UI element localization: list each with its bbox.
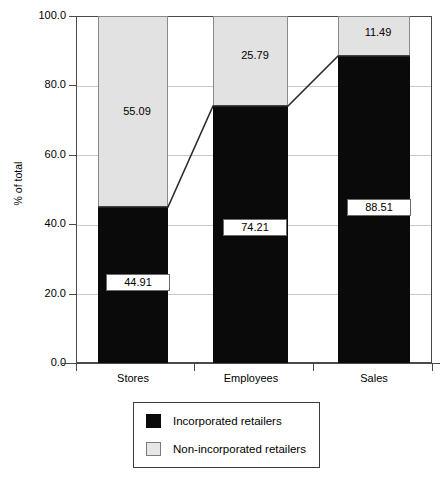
legend-item-incorporated: Incorporated retailers xyxy=(146,414,282,428)
value-label-sales-non-incorporated: 11.49 xyxy=(344,25,412,40)
y-tick-20 xyxy=(69,294,76,295)
x-tick-2 xyxy=(313,363,314,371)
value-label-sales-incorporated: 88.51 xyxy=(347,199,411,216)
y-tick-label-100: 100.0 xyxy=(18,10,66,21)
y-tick-label-0: 0.0 xyxy=(18,357,66,368)
x-tick-label-stores: Stores xyxy=(103,372,163,384)
y-tick-100 xyxy=(69,16,76,17)
legend-label-incorporated: Incorporated retailers xyxy=(173,415,282,428)
x-axis-line xyxy=(62,363,440,364)
y-tick-80 xyxy=(69,85,76,86)
chart-legend: Incorporated retailers Non-incorporated … xyxy=(133,402,320,468)
value-label-employees-incorporated: 74.21 xyxy=(223,219,287,236)
y-axis-title: % of total xyxy=(13,144,24,224)
x-tick-label-sales: Sales xyxy=(344,372,404,384)
x-tick-1 xyxy=(194,363,195,371)
y-tick-60 xyxy=(69,155,76,156)
y-tick-40 xyxy=(69,224,76,225)
y-tick-label-40: 40.0 xyxy=(18,218,66,229)
value-label-stores-non-incorporated: 55.09 xyxy=(103,104,171,119)
y-tick-label-60: 60.0 xyxy=(18,149,66,160)
value-label-employees-non-incorporated: 25.79 xyxy=(221,48,289,63)
y-tick-label-80: 80.0 xyxy=(18,79,66,90)
x-tick-left-edge xyxy=(76,363,77,371)
y-axis-line xyxy=(76,16,77,363)
legend-item-non-incorporated: Non-incorporated retailers xyxy=(146,442,306,456)
value-label-stores-incorporated: 44.91 xyxy=(106,274,170,291)
legend-swatch-icon-incorporated xyxy=(146,414,161,428)
y-tick-label-20: 20.0 xyxy=(18,288,66,299)
chart-root: 100.0 80.0 60.0 40.0 20.0 0.0 % of total xyxy=(0,0,446,484)
x-tick-label-employees: Employees xyxy=(213,372,289,384)
x-tick-right-edge xyxy=(432,363,433,371)
legend-swatch-icon-non-incorporated xyxy=(146,442,161,456)
stacked-bar-chart: 100.0 80.0 60.0 40.0 20.0 0.0 % of total xyxy=(0,0,446,396)
legend-label-non-incorporated: Non-incorporated retailers xyxy=(173,443,306,456)
